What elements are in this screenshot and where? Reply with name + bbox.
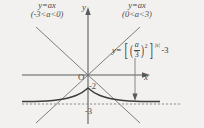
equation-offset: -3 (161, 45, 168, 55)
left-paren: ( (130, 44, 133, 56)
origin-label: O (78, 73, 85, 83)
label-left-line: y=ax (-3<a<0) (14, 1, 80, 19)
equation-body: [ ( a 3 ) 2 ] |x| (123, 41, 160, 59)
equation-lhs: y= (112, 45, 122, 55)
curve-equation-label: y= [ ( a 3 ) 2 ] |x| -3 (112, 41, 168, 59)
fraction-a-over-3: a 3 (134, 41, 140, 59)
x-axis-label: x (144, 73, 148, 83)
right-paren: ) (141, 44, 144, 56)
left-square-bracket: [ (124, 42, 127, 57)
outer-exponent: |x| (154, 42, 159, 48)
y-axis-label: y (82, 3, 86, 13)
math-figure: y=ax (-3<a<0) y=ax (0<a<3) y x O -2 -3 y… (0, 0, 204, 128)
fraction-numerator: a (134, 41, 140, 49)
right-square-bracket: ] (149, 42, 152, 57)
label-left-condition: (-3<a<0) (14, 10, 80, 19)
inner-exponent: 2 (145, 43, 148, 49)
label-right-line: y=ax (0<a<3) (104, 1, 170, 19)
label-right-condition: (0<a<3) (104, 10, 170, 19)
y-tick-label-minus-3: -3 (85, 107, 92, 116)
y-tick-label-minus-2: -2 (89, 82, 96, 91)
fraction-denominator: 3 (134, 51, 140, 59)
formula-leader-arrow (132, 58, 137, 101)
